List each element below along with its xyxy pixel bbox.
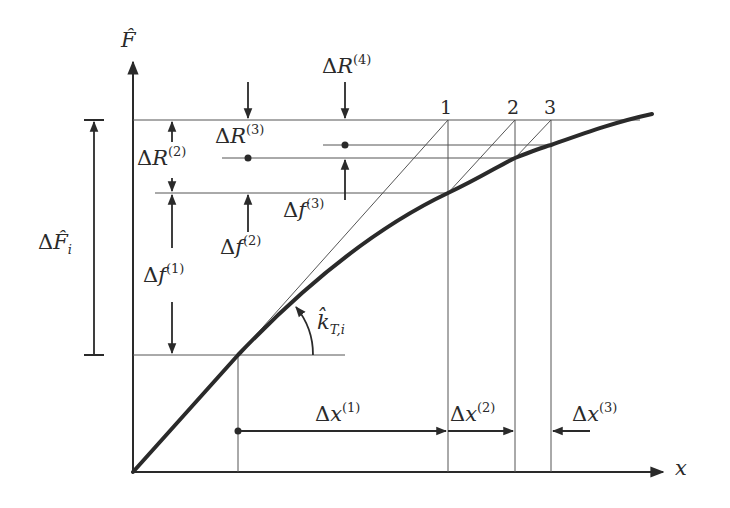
delta-F-i-label: ΔF̂i bbox=[38, 232, 72, 253]
delta-R3-label: ΔR(3) bbox=[215, 126, 264, 147]
y-axis-label: F̂ bbox=[121, 30, 136, 51]
delta-R2-label: ΔR(2) bbox=[137, 148, 186, 169]
delta-f2-label: Δf(2) bbox=[220, 237, 261, 258]
delta-R4-label: ΔR(4) bbox=[322, 56, 371, 77]
stiffness-angle-arc bbox=[296, 307, 313, 355]
delta-R3-dot bbox=[245, 155, 252, 162]
delta-x2-label: Δx(2) bbox=[450, 404, 495, 425]
iteration-marker-2: 2 bbox=[507, 98, 519, 117]
iteration-marker-3: 3 bbox=[544, 98, 556, 117]
stiffness-k-label: k̂T,i bbox=[317, 312, 345, 333]
delta-x3-label: Δx(3) bbox=[572, 404, 617, 425]
tangent-line-2 bbox=[448, 120, 515, 193]
iteration-marker-1: 1 bbox=[440, 98, 452, 117]
delta-f1-label: Δf(1) bbox=[143, 265, 184, 286]
delta-x1-label: Δx(1) bbox=[315, 404, 360, 425]
delta-f3-label: Δf(3) bbox=[283, 200, 324, 221]
delta-R4-dot bbox=[342, 142, 349, 149]
x-axis-label: x bbox=[675, 458, 687, 479]
